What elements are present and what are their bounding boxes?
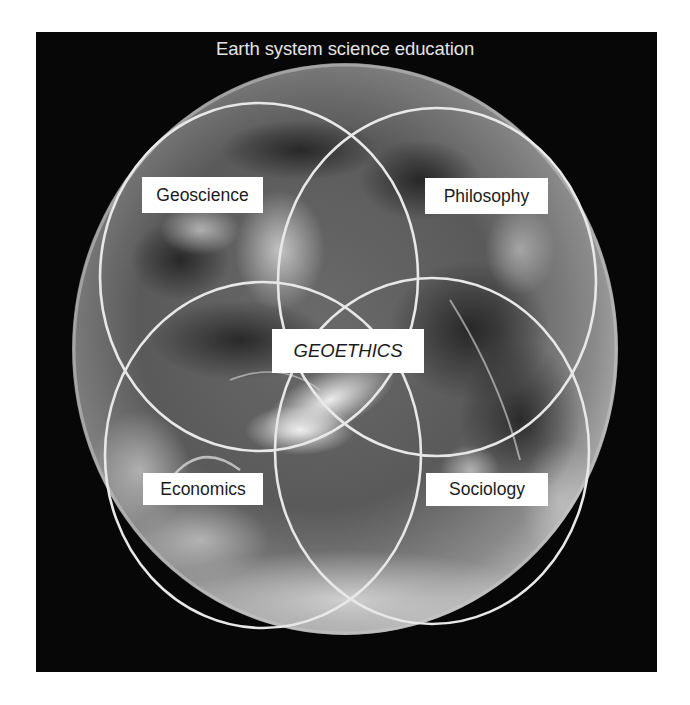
diagram-title: Earth system science education <box>0 38 690 60</box>
geoethics-center-label: GEOETHICS <box>272 329 424 373</box>
geoscience-label: Geoscience <box>142 177 263 213</box>
economics-label: Economics <box>143 473 263 505</box>
sociology-label: Sociology <box>426 473 548 506</box>
philosophy-label: Philosophy <box>425 178 548 214</box>
